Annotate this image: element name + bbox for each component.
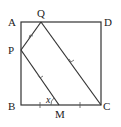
square-abcd bbox=[21, 22, 101, 105]
label-q: Q bbox=[37, 7, 45, 19]
label-m: M bbox=[55, 108, 65, 120]
angle-arc-x bbox=[51, 98, 54, 105]
label-p: P bbox=[8, 44, 14, 56]
label-b: B bbox=[8, 100, 15, 112]
angle-label-x: x bbox=[45, 94, 51, 105]
label-a: A bbox=[8, 16, 16, 28]
parallel-mark-pm bbox=[38, 75, 43, 78]
segment-pq bbox=[21, 22, 41, 50]
geometry-diagram: A Q D P B M C x bbox=[0, 0, 121, 127]
label-c: C bbox=[103, 100, 110, 112]
label-d: D bbox=[104, 16, 112, 28]
